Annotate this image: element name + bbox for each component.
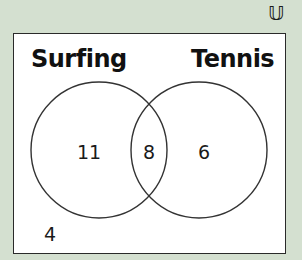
set-label-tennis: Tennis [191,45,274,73]
set-label-surfing: Surfing [31,45,127,73]
region-surfing-only: 11 [76,141,102,163]
venn-circles [0,0,302,260]
region-intersection: 8 [140,141,158,163]
region-outside: 4 [41,223,59,245]
region-tennis-only: 6 [195,141,213,163]
